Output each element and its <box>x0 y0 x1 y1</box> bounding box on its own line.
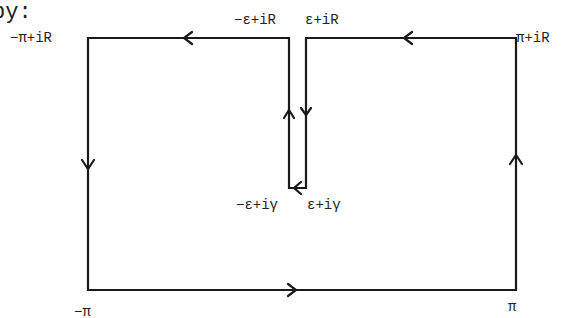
label-top-slot-right: ε+iR <box>305 13 339 27</box>
label-bottom-right: π <box>508 300 516 314</box>
label-top-left: −π+iR <box>10 31 52 45</box>
contour-path <box>88 38 516 290</box>
label-bottom-slot-right: ε+iγ <box>307 198 341 212</box>
contour-diagram <box>0 0 570 318</box>
label-top-right: π+iR <box>516 31 550 45</box>
label-bottom-left: −π <box>74 305 91 318</box>
label-bottom-slot-left: −ε+iγ <box>236 198 278 212</box>
label-top-slot-left: −ε+iR <box>234 13 276 27</box>
